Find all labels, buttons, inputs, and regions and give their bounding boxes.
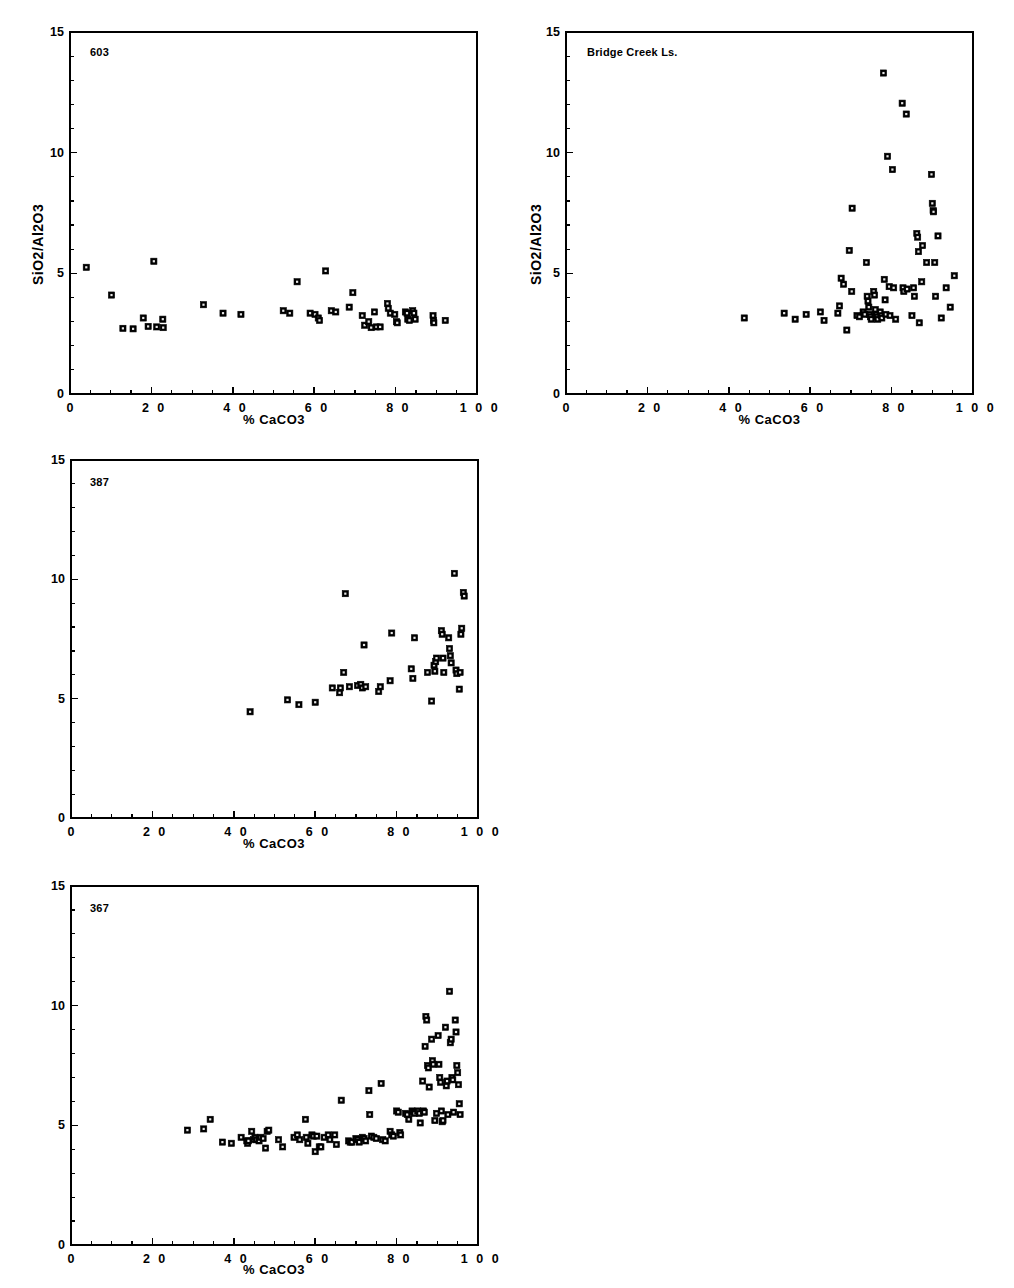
data-point-core xyxy=(940,317,942,319)
data-point-core xyxy=(419,1122,421,1124)
data-point-core xyxy=(459,1113,461,1115)
data-point-core xyxy=(251,1130,253,1132)
data-point-core xyxy=(743,317,745,319)
plot-canvas-367 xyxy=(0,866,507,1288)
data-point-core xyxy=(848,249,850,251)
data-point-core xyxy=(296,281,298,283)
data-point-core xyxy=(203,1128,205,1130)
data-point-core xyxy=(437,1034,439,1036)
data-point-core xyxy=(461,627,463,629)
y-tick-label: 5 xyxy=(39,692,65,706)
data-point-core xyxy=(805,313,807,315)
data-point-core xyxy=(439,1081,441,1083)
data-point-core xyxy=(240,313,242,315)
data-point-core xyxy=(414,318,416,320)
data-point-core xyxy=(296,1134,298,1136)
data-point-core xyxy=(448,990,450,992)
data-point-core xyxy=(918,322,920,324)
data-point-core xyxy=(819,311,821,313)
data-point-core xyxy=(329,1139,331,1141)
data-point-core xyxy=(434,1119,436,1121)
data-point-core xyxy=(221,1141,223,1143)
data-point-core xyxy=(917,251,919,253)
data-point-core xyxy=(431,700,433,702)
data-point-core xyxy=(427,1067,429,1069)
data-point-core xyxy=(348,306,350,308)
data-point-core xyxy=(209,1118,211,1120)
data-point-core xyxy=(874,308,876,310)
data-point-core xyxy=(389,680,391,682)
data-point-core xyxy=(397,1111,399,1113)
data-point-core xyxy=(953,275,955,277)
x-tick-label: 2 0 xyxy=(638,401,663,415)
x-tick-label: 1 0 0 xyxy=(461,825,501,839)
data-point-core xyxy=(327,1134,329,1136)
data-point-core xyxy=(450,1038,452,1040)
data-point-core xyxy=(309,312,311,314)
x-axis-label-387: % CaCO3 xyxy=(70,836,478,851)
data-point-core xyxy=(837,312,839,314)
data-point-core xyxy=(422,1080,424,1082)
data-point-core xyxy=(368,321,370,323)
data-point-core xyxy=(316,1135,318,1137)
data-point-core xyxy=(426,671,428,673)
data-point-core xyxy=(380,1082,382,1084)
data-point-core xyxy=(945,287,947,289)
data-point-core xyxy=(153,260,155,262)
plot-canvas-603 xyxy=(0,0,507,440)
x-axis-label-367: % CaCO3 xyxy=(70,1262,478,1277)
data-point-core xyxy=(905,113,907,115)
y-tick-label: 0 xyxy=(38,387,64,401)
data-point-core xyxy=(325,270,327,272)
x-tick-label: 6 0 xyxy=(305,401,330,415)
data-point-core xyxy=(457,1084,459,1086)
data-point-core xyxy=(458,688,460,690)
data-point-core xyxy=(85,266,87,268)
data-point-core xyxy=(867,300,869,302)
data-point-core xyxy=(406,1113,408,1115)
data-point-core xyxy=(424,1045,426,1047)
data-point-core xyxy=(298,704,300,706)
data-point-core xyxy=(406,312,408,314)
data-point-group xyxy=(184,988,463,1155)
data-point-core xyxy=(408,319,410,321)
data-point-core xyxy=(426,1019,428,1021)
data-point-core xyxy=(368,1090,370,1092)
data-point-core xyxy=(343,671,345,673)
data-point-core xyxy=(339,687,341,689)
panel-tag-367: 367 xyxy=(90,902,109,914)
data-point-core xyxy=(365,1140,367,1142)
data-point-core xyxy=(917,236,919,238)
data-point-core xyxy=(865,261,867,263)
x-tick-label: 8 0 xyxy=(387,825,412,839)
x-tick-label: 8 0 xyxy=(387,1252,412,1266)
scatter-panel-387: 387 % CaCO3 02 04 06 08 01 0 0051015 xyxy=(0,440,507,868)
data-point-core xyxy=(921,244,923,246)
data-point-group xyxy=(741,70,957,333)
data-point-core xyxy=(440,1110,442,1112)
data-point-core xyxy=(450,662,452,664)
data-point-core xyxy=(132,328,134,330)
data-point-core xyxy=(934,295,936,297)
data-point-core xyxy=(913,295,915,297)
y-tick-label: 15 xyxy=(534,25,560,39)
data-point-core xyxy=(932,211,934,213)
data-point-core xyxy=(335,1143,337,1145)
data-point-core xyxy=(400,1134,402,1136)
data-point-core xyxy=(851,207,853,209)
data-point-core xyxy=(147,325,149,327)
data-point-core xyxy=(348,686,350,688)
x-tick-label: 6 0 xyxy=(306,825,331,839)
data-point-core xyxy=(363,644,365,646)
data-point-core xyxy=(268,1129,270,1131)
data-point-core xyxy=(432,314,434,316)
data-point-core xyxy=(358,1141,360,1143)
data-point-core xyxy=(882,72,884,74)
data-point-core xyxy=(432,1063,434,1065)
data-point-core xyxy=(289,312,291,314)
data-point-core xyxy=(387,307,389,309)
data-point-core xyxy=(375,1137,377,1139)
x-axis-label-bridge-creek: % CaCO3 xyxy=(566,412,973,427)
x-tick-label: 2 0 xyxy=(143,1252,168,1266)
y-tick-label: 5 xyxy=(38,266,64,280)
